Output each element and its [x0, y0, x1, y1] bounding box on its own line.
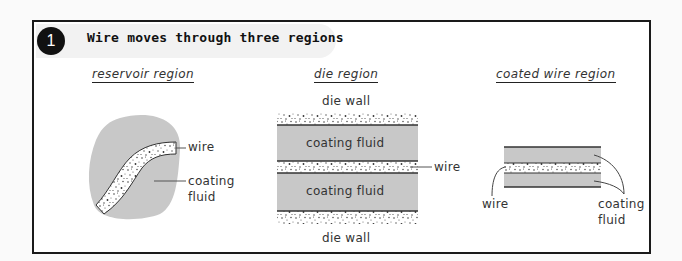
reservoir-wire-label: wire — [188, 140, 214, 155]
die-fluid-bottom-label: coating fluid — [306, 184, 384, 199]
coated-fluid-label-1: coating — [598, 197, 645, 212]
die-wall-bottom — [277, 211, 418, 224]
coated-wire — [504, 163, 601, 173]
die-wire — [277, 161, 418, 173]
coated-fluid-label-2: fluid — [598, 213, 626, 228]
die-wall-bottom-label: die wall — [322, 231, 370, 246]
coated-wire-label: wire — [482, 197, 508, 212]
die-wall-top-label: die wall — [322, 94, 370, 109]
reservoir-diagram — [89, 115, 186, 219]
reservoir-fluid-label-1: coating — [188, 174, 235, 189]
diagram-graphics — [0, 0, 682, 261]
reservoir-fluid-label-2: fluid — [188, 190, 216, 205]
coated-wire-diagram — [492, 147, 624, 196]
die-fluid-top-label: coating fluid — [306, 136, 384, 151]
die-wall-top — [277, 113, 418, 125]
die-diagram — [277, 113, 432, 224]
die-wire-label: wire — [434, 160, 460, 175]
